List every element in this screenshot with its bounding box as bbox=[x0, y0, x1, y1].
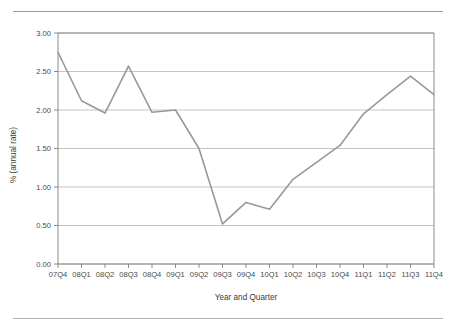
grid-lines bbox=[58, 33, 434, 264]
x-tick-label: 11Q1 bbox=[354, 270, 372, 279]
x-axis-tick-labels: 07Q408Q108Q208Q308Q409Q109Q209Q309Q410Q1… bbox=[49, 270, 443, 279]
x-tick-label: 10Q4 bbox=[331, 270, 350, 279]
y-tick-label: 1.00 bbox=[36, 183, 51, 192]
x-axis-ticks bbox=[58, 264, 434, 268]
y-axis-ticks bbox=[54, 33, 58, 264]
x-tick-label: 11Q4 bbox=[425, 270, 443, 279]
figure-container: 3.002.502.001.501.000.500.00 07Q408Q108Q… bbox=[0, 0, 462, 324]
x-tick-label: 08Q3 bbox=[119, 270, 138, 279]
y-tick-label: 0.50 bbox=[36, 221, 51, 230]
x-tick-label: 09Q3 bbox=[213, 270, 232, 279]
x-tick-label: 09Q4 bbox=[237, 270, 256, 279]
x-tick-label: 09Q2 bbox=[190, 270, 209, 279]
y-tick-label: 1.50 bbox=[36, 144, 51, 153]
x-tick-label: 09Q1 bbox=[166, 270, 185, 279]
x-tick-label: 08Q1 bbox=[72, 270, 91, 279]
x-tick-label: 11Q2 bbox=[378, 270, 396, 279]
y-tick-label: 3.00 bbox=[36, 29, 51, 38]
y-tick-label: 2.00 bbox=[36, 106, 51, 115]
x-axis-title: Year and Quarter bbox=[215, 293, 278, 302]
y-tick-label: 0.00 bbox=[36, 260, 51, 269]
line-chart: 3.002.502.001.501.000.500.00 07Q408Q108Q… bbox=[0, 0, 462, 324]
data-series-line bbox=[58, 52, 434, 224]
x-tick-label: 08Q2 bbox=[96, 270, 115, 279]
x-tick-label: 10Q2 bbox=[284, 270, 303, 279]
x-tick-label: 10Q1 bbox=[260, 270, 279, 279]
x-tick-label: 08Q4 bbox=[143, 270, 162, 279]
y-axis-title: % (annual rate) bbox=[9, 127, 18, 183]
x-tick-label: 11Q3 bbox=[401, 270, 419, 279]
y-tick-label: 2.50 bbox=[36, 67, 51, 76]
x-tick-label: 10Q3 bbox=[307, 270, 326, 279]
x-tick-label: 07Q4 bbox=[49, 270, 68, 279]
y-axis-tick-labels: 3.002.502.001.501.000.500.00 bbox=[36, 29, 51, 269]
